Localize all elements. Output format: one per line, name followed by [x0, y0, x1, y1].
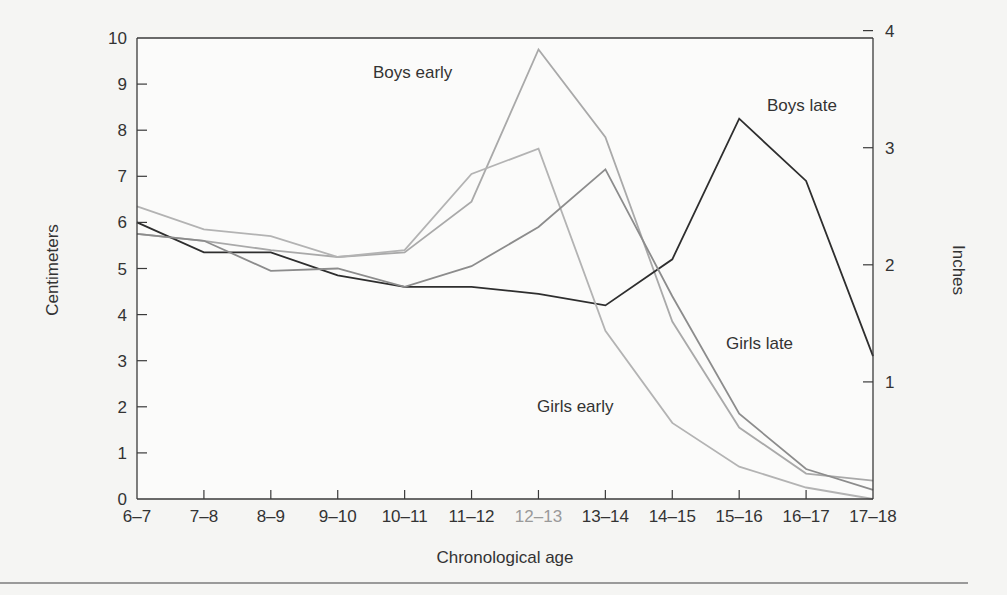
y-tick-label: 7	[118, 167, 127, 186]
series-label-boys-late: Boys late	[767, 96, 837, 115]
y-tick-label: 3	[118, 352, 127, 371]
x-axis-title: Chronological age	[436, 548, 573, 567]
series-label-girls-late: Girls late	[726, 334, 793, 353]
y-axis-title: Centimeters	[43, 224, 62, 316]
chart-canvas: 01234567891012346–77–88–99–1010–1111–121…	[0, 0, 1007, 595]
series-label-boys-early: Boys early	[373, 63, 453, 82]
x-tick-label: 8–9	[257, 507, 285, 526]
x-tick-label: 14–15	[649, 507, 696, 526]
y-tick-label: 10	[108, 29, 127, 48]
y2-tick-label: 2	[885, 256, 894, 275]
x-tick-label: 11–12	[449, 507, 495, 526]
y-tick-label: 2	[118, 398, 127, 417]
bottom-divider	[0, 582, 968, 584]
x-tick-label: 16–17	[782, 507, 829, 526]
x-tick-label: 15–16	[716, 507, 763, 526]
y-tick-label: 1	[118, 444, 127, 463]
y2-axis-title: Inches	[949, 245, 968, 295]
plot-background	[137, 38, 873, 499]
y-tick-label: 9	[118, 75, 127, 94]
x-tick-label: 7–8	[190, 507, 218, 526]
x-tick-label: 9–10	[319, 507, 357, 526]
y-tick-label: 8	[118, 121, 127, 140]
line-chart: 01234567891012346–77–88–99–1010–1111–121…	[0, 0, 1007, 595]
y2-tick-label: 3	[885, 139, 894, 158]
x-tick-label: 12–13	[515, 507, 562, 526]
y2-tick-label: 1	[885, 373, 894, 392]
x-tick-label: 10–11	[382, 507, 428, 526]
series-label-girls-early: Girls early	[537, 397, 614, 416]
y-tick-label: 5	[118, 260, 127, 279]
x-tick-label: 6–7	[123, 507, 151, 526]
y2-tick-label: 4	[885, 22, 894, 41]
y-tick-label: 4	[118, 306, 127, 325]
y-tick-label: 6	[118, 213, 127, 232]
x-tick-label: 13–14	[582, 507, 629, 526]
x-tick-label: 17–18	[849, 507, 896, 526]
